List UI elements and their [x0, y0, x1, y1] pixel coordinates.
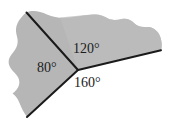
angle-label-80: 80°: [37, 61, 57, 75]
figure-svg: [0, 0, 171, 127]
angle-label-120: 120°: [73, 42, 100, 56]
geometry-figure: 120° 80° 160°: [0, 0, 171, 127]
angle-label-160: 160°: [74, 76, 101, 90]
